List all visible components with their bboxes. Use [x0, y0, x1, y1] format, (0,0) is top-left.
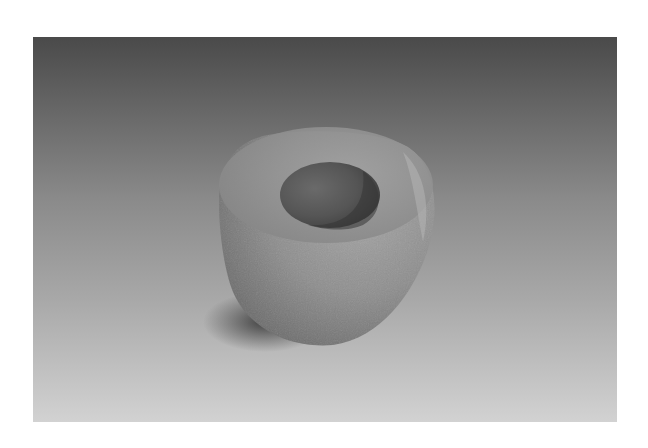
mortar-photo-svg — [33, 37, 617, 422]
photograph: Photograph of a round carved stone morta… — [33, 37, 617, 422]
